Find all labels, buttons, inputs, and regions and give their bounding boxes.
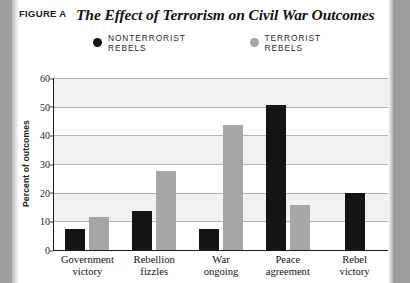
y-axis-tick-label: 0 xyxy=(45,245,50,256)
y-axis-tick-label: 60 xyxy=(40,73,50,84)
y-axis-tick-label: 20 xyxy=(40,187,50,198)
bar xyxy=(223,125,243,250)
chart-axes: GovernmentvictoryRebellionfizzlesWarongo… xyxy=(53,78,388,251)
y-axis-tick-label: 30 xyxy=(40,159,50,170)
bar xyxy=(89,217,109,250)
bar xyxy=(266,105,286,250)
bar-group xyxy=(254,78,321,250)
y-axis-tick-label: 10 xyxy=(40,216,50,227)
bar-group xyxy=(188,78,255,250)
bar xyxy=(65,229,85,251)
page-gutter-right xyxy=(393,0,410,283)
chart-bars xyxy=(54,78,388,250)
page-title: The Effect of Terrorism on Civil War Out… xyxy=(76,6,374,24)
chart-legend: NONTERRORIST REBELS TERRORIST REBELS xyxy=(93,33,388,53)
y-axis-tick-label: 40 xyxy=(40,130,50,141)
bar-group xyxy=(321,78,388,250)
y-axis-ticks: 0102030405060 xyxy=(33,78,53,250)
y-axis-tick-label: 50 xyxy=(40,101,50,112)
legend-dot-icon xyxy=(250,38,259,47)
legend-dot-icon xyxy=(93,38,102,47)
x-axis-label: Rebelvictory xyxy=(321,251,388,278)
legend-item-terrorist-rebels: TERRORIST REBELS xyxy=(250,33,346,53)
figure-label: FIGURE A xyxy=(19,6,76,19)
page-gutter-left xyxy=(0,0,12,283)
page-gutter-left-fade xyxy=(12,0,19,283)
x-axis-label: Governmentvictory xyxy=(54,251,121,278)
x-axis-label: Peaceagreement xyxy=(254,251,321,278)
chart-plot-area: Percent of outcomes 0102030405060 Govern… xyxy=(19,78,388,283)
y-axis-title: Percent of outcomes xyxy=(21,78,31,250)
legend-label: TERRORIST REBELS xyxy=(265,33,346,53)
x-axis-label: Rebellionfizzles xyxy=(121,251,188,278)
bar xyxy=(156,171,176,250)
bar xyxy=(199,229,219,250)
bar-group xyxy=(54,78,121,250)
legend-label: NONTERRORIST REBELS xyxy=(108,33,208,53)
figure-container: FIGURE A The Effect of Terrorism on Civi… xyxy=(19,0,388,283)
bar xyxy=(132,211,152,250)
x-axis-label: Warongoing xyxy=(188,251,255,278)
bar xyxy=(290,205,310,250)
page-gutter-right-fade xyxy=(388,0,393,283)
x-axis-labels: GovernmentvictoryRebellionfizzlesWarongo… xyxy=(54,251,388,278)
bar xyxy=(345,193,365,250)
bar-group xyxy=(121,78,188,250)
figure-header: FIGURE A The Effect of Terrorism on Civi… xyxy=(19,0,388,24)
scanned-page: FIGURE A The Effect of Terrorism on Civi… xyxy=(0,0,410,283)
legend-item-nonterrorist-rebels: NONTERRORIST REBELS xyxy=(93,33,208,53)
